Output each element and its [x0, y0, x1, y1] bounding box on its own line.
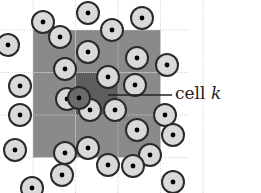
particle — [101, 19, 123, 41]
particle — [9, 104, 31, 126]
particle — [4, 139, 26, 161]
particle — [0, 34, 19, 56]
cell-index-variable: k — [211, 83, 221, 103]
particle — [97, 154, 119, 176]
particle — [122, 155, 144, 177]
particle — [154, 104, 176, 126]
particle — [104, 99, 126, 121]
particle — [77, 41, 99, 63]
particle — [54, 58, 76, 80]
particle — [97, 66, 119, 88]
cell-label-text: cell — [175, 83, 205, 103]
particle — [156, 54, 178, 76]
particle — [126, 119, 148, 141]
particle — [126, 47, 148, 69]
particle — [131, 7, 153, 29]
particle — [9, 75, 31, 97]
particle — [54, 142, 76, 164]
highlighted-particle — [68, 87, 90, 109]
particle — [51, 164, 73, 186]
cell-k-label: cell k — [175, 83, 221, 103]
cell-list-diagram — [0, 0, 261, 193]
particle — [162, 124, 184, 146]
particle — [49, 26, 71, 48]
particle — [162, 171, 184, 193]
particle — [124, 74, 146, 96]
particle — [77, 137, 99, 159]
particle — [77, 2, 99, 24]
particle — [21, 177, 43, 193]
